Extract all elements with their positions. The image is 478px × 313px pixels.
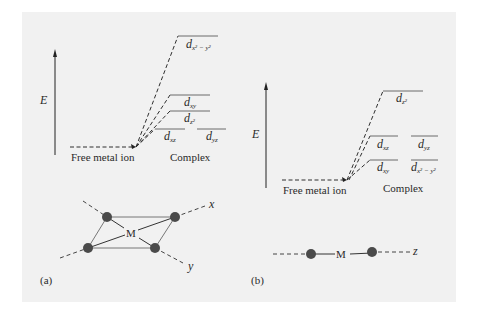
free-ion-caption: Free metal ion: [283, 184, 347, 196]
panel-b-tag: (b): [251, 274, 264, 287]
complex-caption: Complex: [383, 182, 424, 194]
ligand-atom: [306, 249, 316, 259]
ligand-atom: [83, 243, 93, 253]
z-axis-label: z: [412, 244, 418, 258]
energy-label: E: [251, 127, 260, 141]
ligand-atom: [367, 247, 377, 257]
energy-label: E: [39, 93, 48, 107]
panel-a-tag: (a): [40, 274, 53, 287]
metal-label: M: [126, 227, 136, 239]
ligand-atom: [102, 212, 112, 222]
d-orbital-splitting-figure: E dx² − y² dxy dz² dxz dyz Free metal io…: [0, 0, 478, 313]
metal-label: M: [336, 248, 346, 260]
ligand-atom: [150, 243, 160, 253]
complex-caption: Complex: [170, 151, 211, 163]
free-ion-caption: Free metal ion: [71, 151, 135, 163]
x-axis-label: x: [208, 197, 215, 211]
y-axis-label: y: [187, 259, 194, 273]
ligand-atom: [170, 212, 180, 222]
